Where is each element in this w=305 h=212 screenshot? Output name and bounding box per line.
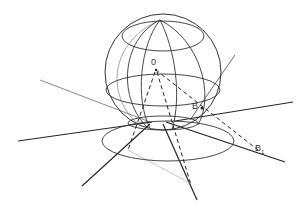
point-b-label: B (192, 102, 198, 111)
origin-label: 0 (151, 58, 156, 67)
ray-lower-mid (163, 124, 197, 200)
ray-upper-left (40, 80, 150, 122)
point-b1-label: B1 (255, 144, 264, 155)
sphere-outline (105, 14, 221, 130)
point-b-marker (201, 107, 204, 110)
faint-chord (128, 150, 190, 183)
point-origin-marker (155, 69, 157, 71)
ray-to-b1 (166, 122, 285, 162)
meridian-back (117, 20, 160, 126)
ray-lower-left (82, 124, 150, 186)
tangent-disk (102, 121, 234, 161)
point-b1-subscript: 1 (261, 149, 264, 155)
sphere-projection-diagram (0, 0, 305, 212)
